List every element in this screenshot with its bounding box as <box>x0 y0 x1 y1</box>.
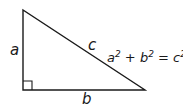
eq-equals: = <box>154 50 173 65</box>
eq-exp-c: 2 <box>180 49 183 59</box>
eq-a: a <box>107 50 115 65</box>
label-c: c <box>88 38 96 53</box>
eq-plus: + <box>121 50 140 65</box>
label-a: a <box>10 43 19 58</box>
pythagorean-equation: a2 + b2 = c2 <box>107 50 183 64</box>
eq-b: b <box>140 50 148 65</box>
right-angle-marker <box>23 81 32 90</box>
label-b: b <box>82 92 92 107</box>
